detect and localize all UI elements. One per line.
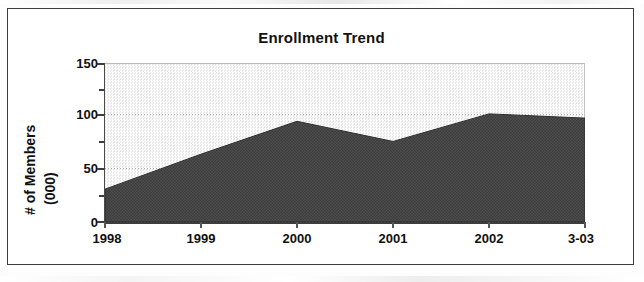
x-axis-label-1999: 1999 — [171, 231, 231, 246]
y-axis-title: # of Members (000) — [16, 55, 80, 215]
scan-artifact-top — [0, 0, 644, 4]
x-axis-line — [104, 222, 585, 224]
y-axis-tick-label-50: 50 — [52, 161, 98, 176]
x-axis-tick-2001 — [392, 222, 394, 228]
scan-artifact-bottom — [0, 276, 644, 282]
y-axis-tick-label-0: 0 — [52, 215, 98, 230]
chart-page: Enrollment Trend # of Members (000) 150 … — [0, 0, 644, 282]
y-axis-tick-label-150: 150 — [52, 56, 98, 71]
chart-frame: Enrollment Trend # of Members (000) 150 … — [7, 8, 634, 265]
x-axis-tick-2002 — [488, 222, 490, 228]
x-axis-tick-2000 — [296, 222, 298, 228]
x-axis-tick-1998 — [104, 222, 106, 228]
x-axis-label-1998: 1998 — [77, 231, 137, 246]
x-axis-label-2002: 2002 — [459, 231, 519, 246]
chart-title: Enrollment Trend — [8, 29, 635, 46]
y-axis-title-line-2: (000) — [42, 172, 58, 205]
x-axis-label-3-03: 3-03 — [551, 231, 611, 246]
y-axis-tick-label-100: 100 — [52, 107, 98, 122]
x-axis-tick-1999 — [200, 222, 202, 228]
x-axis-tick-3-03 — [584, 222, 586, 228]
x-axis-label-2000: 2000 — [267, 231, 327, 246]
area-series-enrollment — [105, 63, 585, 222]
x-axis-label-2001: 2001 — [363, 231, 423, 246]
plot-area — [104, 63, 585, 222]
y-axis-title-line-1: # of Members — [22, 125, 38, 215]
